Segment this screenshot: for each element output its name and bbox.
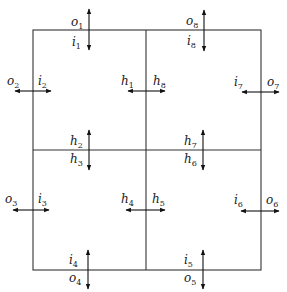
label-h2: h2 xyxy=(70,134,83,150)
label-h1: h1 xyxy=(121,74,134,90)
label-i1: i1 xyxy=(72,35,81,51)
label-i4: i4 xyxy=(69,253,78,269)
label-h6: h6 xyxy=(184,152,197,168)
label-i8: i8 xyxy=(187,34,196,50)
label-o3: o3 xyxy=(5,192,17,208)
label-i3: i3 xyxy=(38,192,47,208)
label-i6: i6 xyxy=(234,193,243,209)
label-h7: h7 xyxy=(184,134,197,150)
grid-diagram: o1 i1 o8 i8 o2 i2 h1 h8 i7 o7 h2 h3 h7 h… xyxy=(0,0,287,292)
label-o4: o4 xyxy=(69,271,81,287)
label-h8: h8 xyxy=(153,74,166,90)
grid-lines xyxy=(33,30,261,270)
label-o1: o1 xyxy=(71,15,83,31)
label-i5: i5 xyxy=(184,253,193,269)
label-i2: i2 xyxy=(38,74,47,90)
label-o2: o2 xyxy=(7,74,19,90)
label-h4: h4 xyxy=(121,192,134,208)
label-o8: o8 xyxy=(186,14,198,30)
label-i7: i7 xyxy=(234,75,243,91)
label-o7: o7 xyxy=(267,75,279,91)
label-o6: o6 xyxy=(266,193,278,209)
label-h5: h5 xyxy=(152,192,165,208)
label-o5: o5 xyxy=(184,271,196,287)
label-h3: h3 xyxy=(70,152,83,168)
